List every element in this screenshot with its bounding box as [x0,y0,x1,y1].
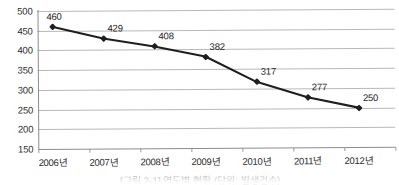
data-point-label: 408 [158,30,173,41]
x-tick-label: 2012년 [345,153,374,167]
x-tick-mark [293,147,294,151]
x-tick-mark [344,147,345,151]
data-point-label: 277 [312,81,327,92]
x-tick-label: 2008년 [141,154,170,168]
data-point-label: 382 [210,40,225,51]
x-tick-label: 2006년 [39,155,68,169]
line-chart: 500 450 400 350 300 250 200 150 46042940… [0,0,399,185]
x-tick-label: 2007년 [90,154,119,168]
x-tick-label: 2009년 [192,154,221,168]
x-tick-label: 2010년 [243,154,272,168]
x-tick-mark [140,148,141,152]
x-tick-label: 2011년 [294,153,322,167]
data-point-label: 250 [363,91,378,102]
x-tick-mark [395,147,396,151]
figure-caption: [그림 2-1] 연도별 현황 (단위: 발생건수) [0,171,399,185]
data-point-label: 317 [261,66,276,77]
x-tick-mark [89,149,90,153]
x-tick-mark [242,148,243,152]
data-point-label: 460 [46,11,61,22]
data-point-label: 429 [107,22,122,33]
x-tick-mark [191,148,192,152]
x-tick-mark [38,149,39,153]
